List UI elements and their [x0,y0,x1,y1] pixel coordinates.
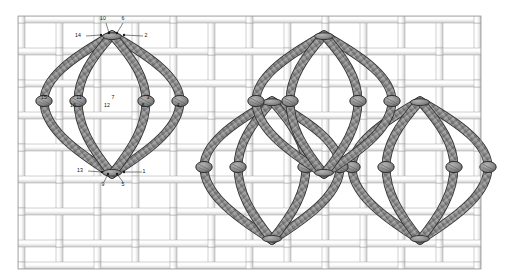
canvas-weave-crossing [132,240,139,247]
canvas-weft-band [18,240,481,247]
canvas-weave-crossing [208,48,215,55]
canvas-weave-crossing [436,240,443,247]
floss-bottom-convergence [411,235,430,242]
canvas-weave-crossing [208,112,215,119]
label-leader-dot [108,32,110,34]
canvas-weave-crossing [360,240,367,247]
canvas-weave-crossing [170,208,177,215]
canvas-weave-crossing [170,16,177,23]
label-leader-dot [123,34,125,36]
canvas-weave-crossing [246,262,253,269]
stitch-number-label-bottom: 1 [143,168,146,174]
canvas-weave-crossing [132,176,139,183]
label-leader-dot [123,171,125,173]
canvas-weave-crossing [170,144,177,151]
canvas-weave-crossing [436,48,443,55]
canvas-weave-crossing [246,144,253,151]
canvas-weft-band [18,176,481,183]
canvas-weave-crossing [208,240,215,247]
canvas-weave-crossing [474,208,481,215]
canvas-weave-crossing [246,16,253,23]
canvas-weave-crossing [18,144,25,151]
canvas-weave-crossing [322,208,329,215]
canvas-weave-crossing [436,176,443,183]
stitch-number-label-mid: 8 [142,102,145,108]
floss-top-convergence [103,33,122,40]
stitch-number-label-mid: 12 [104,102,110,108]
label-leader-dot [116,173,118,175]
canvas-weave-crossing [398,80,405,87]
canvas-weave-crossing [322,16,329,23]
canvas-weave-crossing [18,16,25,23]
stitch-diagram-svg: 14106215161112783413951 [0,0,508,280]
canvas-weave-crossing [56,48,63,55]
stitch-number-label-mid: 15 [41,94,47,100]
canvas-weave-crossing [18,262,25,269]
label-leader-dot [107,173,109,175]
floss-top-convergence [315,33,334,40]
canvas-weave-crossing [360,176,367,183]
stitch-number-label-mid: 3 [147,94,150,100]
canvas-weave-crossing [284,240,291,247]
floss-top-convergence [263,99,282,106]
canvas-weave-crossing [170,262,177,269]
stitch-number-label-bottom: 13 [77,167,83,173]
label-leader-dot [100,34,102,36]
canvas-weave-crossing [474,80,481,87]
canvas-weave-crossing [398,16,405,23]
canvas-weave-crossing [322,80,329,87]
canvas-weave-crossing [94,208,101,215]
canvas-weave-crossing [132,112,139,119]
stitch-number-label-bottom: 9 [102,181,105,187]
canvas-weave-crossing [56,112,63,119]
canvas-weave-crossing [398,144,405,151]
canvas-weave-crossing [474,262,481,269]
canvas-weave-crossing [94,80,101,87]
canvas-weave-crossing [474,16,481,23]
stitch-number-label-top: 14 [75,32,81,38]
diagram-canvas: 14106215161112783413951 [0,0,508,280]
canvas-weave-crossing [398,262,405,269]
canvas-weave-crossing [18,80,25,87]
stitch-number-label-mid: 16 [70,102,76,108]
canvas-weave-crossing [322,262,329,269]
stitch-number-label-mid: 7 [112,94,115,100]
floss-bottom-convergence [315,169,334,176]
canvas-weave-crossing [18,208,25,215]
canvas-weave-crossing [94,262,101,269]
label-leader-dot [101,171,103,173]
stitch-number-label-bottom: 5 [122,181,125,187]
canvas-weave-crossing [284,176,291,183]
floss-top-convergence [411,99,430,106]
canvas-weave-crossing [56,240,63,247]
stitch-number-label-mid: 4 [177,102,180,108]
canvas-weave-crossing [56,176,63,183]
stitch-number-label-top: 2 [145,32,148,38]
floss-bottom-convergence [103,169,122,176]
label-leader-dot [116,32,118,34]
floss-bottom-convergence [263,235,282,242]
stitch-number-label-mid: 11 [76,94,81,100]
canvas-weave-crossing [246,80,253,87]
page-background [0,0,508,280]
